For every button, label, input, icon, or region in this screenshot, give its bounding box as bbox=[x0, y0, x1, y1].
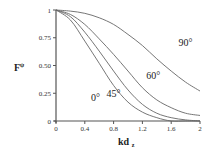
curve-0-deg bbox=[56, 10, 200, 121]
curve-label: 45° bbox=[107, 88, 121, 99]
curve-90-deg bbox=[56, 10, 200, 91]
x-tick-label: 0.4 bbox=[80, 125, 89, 133]
x-tick-label: 0.8 bbox=[109, 125, 118, 133]
curve-label: 90° bbox=[179, 37, 193, 48]
x-tick-label: 2 bbox=[198, 125, 202, 133]
y-tick-label: 0.75 bbox=[39, 34, 52, 42]
y-tick-label: 0.25 bbox=[39, 90, 52, 98]
x-tick-label: 1.6 bbox=[167, 125, 176, 133]
y-tick-label: 0.50 bbox=[39, 62, 52, 70]
curves bbox=[56, 10, 200, 121]
axes: 00.250.500.75100.40.81.21.62 bbox=[39, 7, 203, 134]
curve-label: 0° bbox=[91, 92, 100, 103]
y-tick-label: 0 bbox=[48, 118, 52, 126]
curve-60-deg bbox=[56, 10, 200, 115]
x-tick-label: 0 bbox=[54, 125, 58, 133]
curve-45-deg bbox=[56, 10, 200, 121]
y-tick-label: 1 bbox=[48, 7, 52, 15]
y-axis-title: Fψ bbox=[14, 62, 25, 73]
x-axis-title: kd z bbox=[118, 136, 135, 148]
curve-label: 60° bbox=[146, 70, 160, 81]
x-tick-label: 1.2 bbox=[138, 125, 147, 133]
line-chart: 00.250.500.75100.40.81.21.62 90°60°45°0°… bbox=[0, 0, 211, 154]
